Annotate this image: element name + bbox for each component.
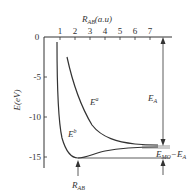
energy-curve-chart: 0 1 2 3 4 5 6 7 RAB(a.u) -5 -10 -15 E(eV… — [0, 0, 195, 196]
y-tick-labels: -5 -10 -15 — [29, 72, 41, 162]
svg-text:-15: -15 — [29, 152, 41, 162]
emo-minus-ea-label: EMO−EA — [155, 149, 186, 160]
x-axis-title: RAB(a.u) — [81, 14, 112, 25]
y-axis-title: E(eV) — [12, 90, 22, 112]
svg-text:2: 2 — [73, 26, 78, 36]
svg-text:7: 7 — [148, 26, 153, 36]
ea-arrow-down-icon — [161, 139, 166, 146]
bonding-label: Eb — [67, 128, 77, 139]
svg-text:-5: -5 — [34, 72, 42, 82]
svg-text:0: 0 — [35, 32, 40, 42]
antibonding-label: Ea — [89, 96, 99, 107]
ea-arrow-up-icon — [161, 37, 166, 44]
svg-text:5: 5 — [118, 26, 123, 36]
svg-text:3: 3 — [88, 26, 93, 36]
svg-text:4: 4 — [103, 26, 108, 36]
svg-text:1: 1 — [58, 26, 63, 36]
ea-label: EA — [147, 93, 158, 104]
svg-text:-10: -10 — [29, 112, 41, 122]
rab-label: RAB — [71, 180, 85, 191]
svg-text:6: 6 — [133, 26, 138, 36]
gap-arrow-up-icon — [161, 159, 166, 166]
antibonding-curve — [67, 57, 158, 145]
bonding-curve — [57, 42, 158, 158]
rab-arrow-up-icon — [76, 160, 81, 167]
